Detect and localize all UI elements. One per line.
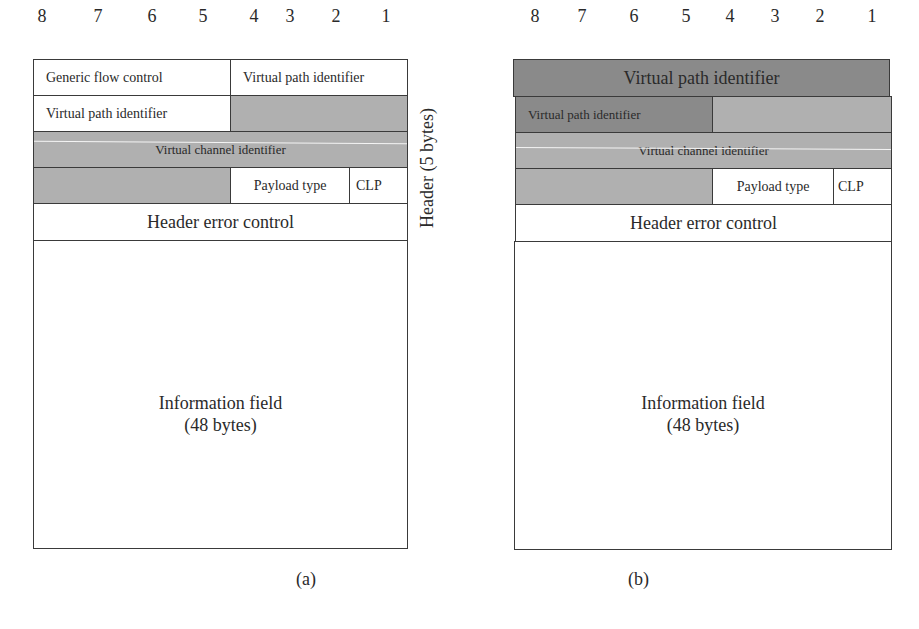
header-error-control-field: Header error control (515, 204, 892, 242)
virtual-channel-identifier-field: Virtual channel identifier (515, 132, 892, 169)
information-field-size: (48 bytes) (33, 414, 408, 436)
bit-number: 1 (376, 6, 396, 27)
bit-number: 3 (765, 6, 785, 27)
bit-number: 7 (88, 6, 108, 27)
bit-number: 5 (676, 6, 696, 27)
bit-number: 2 (810, 6, 830, 27)
virtual-path-identifier-field: Virtual path identifier (515, 96, 713, 133)
header-error-control-field: Header error control (33, 203, 408, 241)
bit-number: 6 (624, 6, 644, 27)
header-size-label: Header (5 bytes) (417, 108, 438, 228)
clp-field: CLP (833, 168, 892, 205)
caption-b: (b) (628, 569, 649, 590)
bit-number: 8 (32, 6, 52, 27)
bit-number: 4 (720, 6, 740, 27)
generic-flow-control-field: Generic flow control (33, 59, 231, 96)
virtual-path-identifier-field: Virtual path identifier (33, 95, 231, 132)
bit-number: 2 (326, 6, 346, 27)
clp-field: CLP (349, 167, 408, 204)
information-field-label: Information field (48 bytes) (514, 392, 892, 436)
shaded-field (230, 95, 408, 132)
bit-number: 6 (142, 6, 162, 27)
shaded-field (515, 168, 713, 205)
bit-number: 4 (244, 6, 264, 27)
bit-number: 7 (572, 6, 592, 27)
payload-type-field: Payload type (230, 167, 350, 204)
information-field-title: Information field (514, 392, 892, 414)
virtual-path-identifier-field: Virtual path identifier (230, 59, 408, 96)
information-field-size: (48 bytes) (514, 414, 892, 436)
bit-number: 1 (862, 6, 882, 27)
bit-number: 3 (280, 6, 300, 27)
information-field-label: Information field (48 bytes) (33, 392, 408, 436)
virtual-path-identifier-field: Virtual path identifier (513, 59, 890, 97)
shaded-field (712, 96, 892, 133)
payload-type-field: Payload type (712, 168, 834, 205)
bit-number: 8 (525, 6, 545, 27)
bit-number: 5 (193, 6, 213, 27)
caption-a: (a) (296, 569, 316, 590)
virtual-channel-identifier-field: Virtual channel identifier (33, 131, 408, 168)
information-field-title: Information field (33, 392, 408, 414)
shaded-field (33, 167, 231, 204)
